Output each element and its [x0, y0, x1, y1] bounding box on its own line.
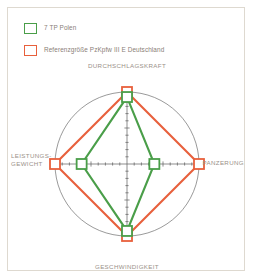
- radar-data-point-marker[interactable]: [122, 226, 132, 236]
- legend-item-referenz[interactable]: Referenzgröße PzKpfw III E Deutschland: [24, 42, 234, 59]
- chart-card: 7 TP Polen Referenzgröße PzKpfw III E De…: [7, 7, 245, 271]
- radar-data-point-marker[interactable]: [77, 159, 87, 169]
- axis-label-leistungsgewicht-line2: GEWICHT: [11, 160, 43, 167]
- legend-label-referenz: Referenzgröße PzKpfw III E Deutschland: [44, 47, 164, 53]
- axis-label-geschwindigkeit: GESCHWINDIGKEIT: [8, 263, 246, 271]
- radar-chart: DURCHSCHLAGSKRAFT PANZERUNG GESCHWINDIGK…: [8, 60, 246, 272]
- radar-data-point-marker[interactable]: [122, 92, 132, 102]
- radar-data-point-marker[interactable]: [149, 159, 159, 169]
- radar-plot-root: [50, 87, 204, 241]
- legend-square-green-icon: [24, 23, 37, 34]
- axis-label-durchschlagskraft: DURCHSCHLAGSKRAFT: [8, 62, 246, 70]
- chart-legend: 7 TP Polen Referenzgröße PzKpfw III E De…: [24, 20, 234, 64]
- axis-label-leistungsgewicht-line1: LEISTUNGS-: [11, 152, 52, 159]
- legend-item-7tp-polen[interactable]: 7 TP Polen: [24, 20, 234, 37]
- legend-label-7tp-polen: 7 TP Polen: [44, 25, 76, 31]
- axis-label-panzerung: PANZERUNG: [202, 159, 244, 167]
- axis-label-leistungsgewicht: LEISTUNGS- GEWICHT: [11, 152, 52, 169]
- legend-square-red-icon: [24, 45, 37, 56]
